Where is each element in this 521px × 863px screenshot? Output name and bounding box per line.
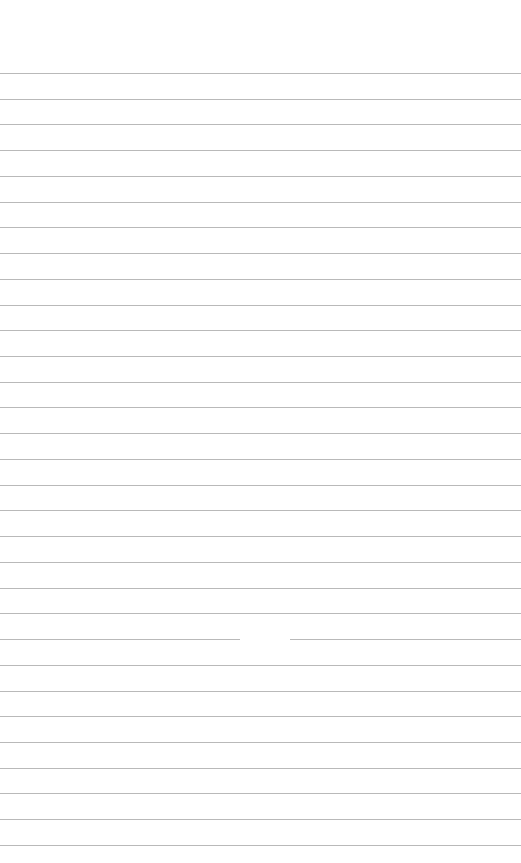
ruled-line	[0, 768, 521, 769]
ruled-line	[0, 510, 521, 511]
ruled-line	[0, 73, 521, 74]
ruled-line	[0, 279, 521, 280]
ruled-line	[0, 459, 521, 460]
ruled-line	[0, 382, 521, 383]
ruled-line	[0, 742, 521, 743]
ruled-line	[0, 613, 521, 614]
ruled-line	[0, 305, 521, 306]
ruled-line	[0, 793, 521, 794]
ruled-line	[0, 99, 521, 100]
ruled-line	[0, 819, 521, 820]
line-gap	[240, 638, 290, 641]
ruled-line	[0, 665, 521, 666]
ruled-line	[0, 562, 521, 563]
ruled-line	[0, 202, 521, 203]
ruled-line	[0, 716, 521, 717]
ruled-line	[0, 150, 521, 151]
ruled-line	[0, 253, 521, 254]
ruled-line	[0, 485, 521, 486]
ruled-line	[0, 227, 521, 228]
ruled-line	[0, 356, 521, 357]
ruled-line	[0, 176, 521, 177]
ruled-line	[0, 845, 521, 846]
ruled-line	[0, 407, 521, 408]
ruled-line	[0, 433, 521, 434]
ruled-line	[0, 330, 521, 331]
ruled-line	[0, 691, 521, 692]
ruled-line	[0, 536, 521, 537]
ruled-line	[0, 124, 521, 125]
ruled-line	[0, 588, 521, 589]
lined-paper	[0, 0, 521, 863]
